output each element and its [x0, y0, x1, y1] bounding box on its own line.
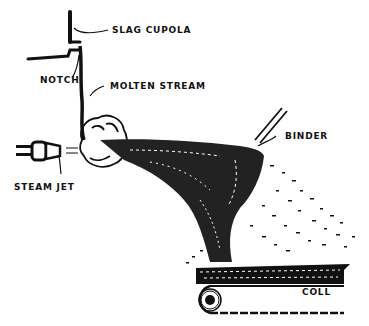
- diagram-drawing: [0, 0, 369, 326]
- slag-cupola: [70, 12, 80, 42]
- label-notch: NOTCH: [40, 75, 79, 85]
- notch: [28, 50, 80, 59]
- steam-jet-nozzle: [16, 142, 78, 160]
- wool-mat: [196, 264, 350, 284]
- binder-pipe: [255, 108, 287, 143]
- label-binder: BINDER: [285, 131, 328, 141]
- label-coll: COLL: [302, 287, 331, 297]
- fiber-stream: [100, 139, 264, 262]
- label-slag-cupola: SLAG CUPOLA: [112, 25, 191, 35]
- slag-wool-process-diagram: SLAG CUPOLA NOTCH MOLTEN STREAM STEAM JE…: [0, 0, 369, 326]
- label-molten-stream: MOLTEN STREAM: [110, 81, 206, 91]
- label-steam-jet: STEAM JET: [14, 182, 75, 192]
